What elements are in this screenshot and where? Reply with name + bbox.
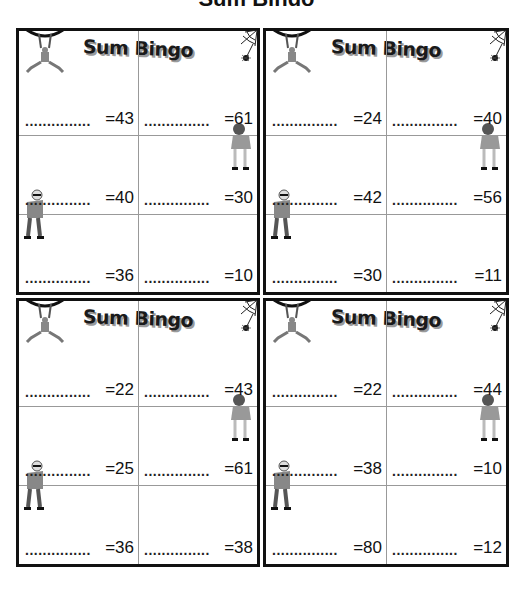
target-sum: =61 [224,109,253,129]
answer-blank[interactable]: ............... [392,463,458,479]
target-sum: =24 [353,109,382,129]
target-sum: =12 [473,538,502,558]
bingo-cell: ...............=22 [19,301,138,406]
bingo-cell: ...............=36 [19,485,138,564]
bingo-cell: ...............=25 [19,406,138,485]
answer-blank[interactable]: ............... [272,113,338,129]
bingo-cell: ...............=40 [19,135,138,214]
page-title-cropped: Sum Bingo [0,0,513,6]
bingo-cell: ...............=38 [266,406,386,485]
sum-line: ...............=36 [25,266,134,286]
bingo-card-1: Sum Bingo ...............=43............… [16,28,260,295]
target-sum: =22 [105,380,134,400]
target-sum: =30 [353,266,382,286]
bingo-cell: ...............=56 [386,135,506,214]
answer-blank[interactable]: ............... [272,270,338,286]
bingo-cell: ...............=42 [266,135,386,214]
answer-blank[interactable]: ............... [144,542,210,558]
sum-line: ...............=61 [144,109,253,129]
sum-line: ...............=25 [25,459,134,479]
bingo-cell: ...............=22 [266,301,386,406]
answer-blank[interactable]: ............... [144,384,210,400]
target-sum: =43 [224,380,253,400]
sum-line: ...............=12 [392,538,502,558]
sum-line: ...............=38 [272,459,382,479]
answer-blank[interactable]: ............... [144,270,210,286]
bingo-cell: ...............=61 [138,31,257,135]
bingo-cell: ...............=24 [266,31,386,135]
answer-blank[interactable]: ............... [25,463,91,479]
answer-blank[interactable]: ............... [144,192,210,208]
bingo-cell: ...............=43 [138,301,257,406]
answer-blank[interactable]: ............... [392,192,458,208]
answer-blank[interactable]: ............... [25,384,91,400]
target-sum: =61 [224,459,253,479]
target-sum: =25 [105,459,134,479]
answer-blank[interactable]: ............... [272,463,338,479]
target-sum: =36 [105,266,134,286]
sum-line: ...............=38 [144,538,253,558]
bingo-cell: ...............=12 [386,485,506,564]
target-sum: =11 [474,266,502,286]
bingo-cell: ...............=30 [138,135,257,214]
bingo-cell: ...............=80 [266,485,386,564]
bingo-cell: ...............=30 [266,214,386,292]
sum-line: ...............=61 [144,459,253,479]
answer-blank[interactable]: ............... [392,542,458,558]
sum-line: ...............=42 [272,188,382,208]
answer-blank[interactable]: ............... [25,192,91,208]
target-sum: =40 [473,109,502,129]
target-sum: =44 [473,380,502,400]
sum-line: ...............=40 [25,188,134,208]
bingo-cell: ...............=40 [386,31,506,135]
bingo-cell: ...............=10 [386,406,506,485]
answer-blank[interactable]: ............... [144,463,210,479]
target-sum: =38 [353,459,382,479]
bingo-card-2: Sum Bingo ...............=24............… [263,28,509,295]
bingo-card-4: Sum Bingo ...............=22............… [263,298,509,567]
sum-line: ...............=10 [392,459,502,479]
answer-blank[interactable]: ............... [272,542,338,558]
sum-line: ...............=80 [272,538,382,558]
sum-line: ...............=36 [25,538,134,558]
sum-line: ...............=30 [272,266,382,286]
answer-blank[interactable]: ............... [392,270,458,286]
bingo-cell: ...............=43 [19,31,138,135]
sum-line: ...............=22 [25,380,134,400]
target-sum: =42 [353,188,382,208]
target-sum: =10 [224,266,253,286]
answer-blank[interactable]: ............... [392,113,458,129]
answer-blank[interactable]: ............... [25,113,91,129]
target-sum: =80 [353,538,382,558]
target-sum: =22 [353,380,382,400]
bingo-cell: ...............=10 [138,214,257,292]
target-sum: =36 [105,538,134,558]
bingo-cell: ...............=38 [138,485,257,564]
answer-blank[interactable]: ............... [272,192,338,208]
sum-line: ...............=24 [272,109,382,129]
sum-line: ...............=43 [25,109,134,129]
answer-blank[interactable]: ............... [25,542,91,558]
sum-line: ...............=43 [144,380,253,400]
answer-blank[interactable]: ............... [392,384,458,400]
target-sum: =40 [105,188,134,208]
answer-blank[interactable]: ............... [144,113,210,129]
bingo-cell: ...............=44 [386,301,506,406]
target-sum: =56 [473,188,502,208]
answer-blank[interactable]: ............... [25,270,91,286]
bingo-card-3: Sum Bingo ...............=22............… [16,298,260,567]
target-sum: =38 [224,538,253,558]
sum-line: ...............=30 [144,188,253,208]
bingo-cell: ...............=61 [138,406,257,485]
sum-line: ...............=56 [392,188,502,208]
sum-line: ...............=11 [392,266,502,286]
target-sum: =43 [105,109,134,129]
sum-line: ...............=40 [392,109,502,129]
target-sum: =10 [473,459,502,479]
sum-line: ...............=10 [144,266,253,286]
target-sum: =30 [224,188,253,208]
bingo-cell: ...............=36 [19,214,138,292]
sum-line: ...............=44 [392,380,502,400]
sum-line: ...............=22 [272,380,382,400]
answer-blank[interactable]: ............... [272,384,338,400]
